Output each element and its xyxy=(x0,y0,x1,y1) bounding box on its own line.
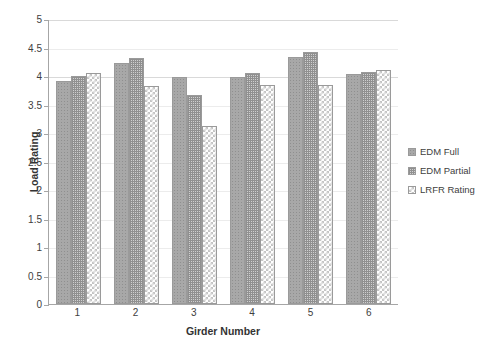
bar-group xyxy=(224,20,282,304)
bar-group xyxy=(282,20,340,304)
bar xyxy=(303,52,318,304)
x-axis-tick-label: 6 xyxy=(340,307,398,318)
bar xyxy=(129,58,144,304)
legend-label: EDM Partial xyxy=(420,165,471,176)
legend-item[interactable]: EDM Full xyxy=(408,146,475,157)
bar xyxy=(245,73,260,304)
bar xyxy=(56,81,71,304)
y-axis-tick-label: 4 xyxy=(36,72,42,82)
x-axis-tick-label: 5 xyxy=(281,307,339,318)
bar xyxy=(202,126,217,304)
bar xyxy=(230,77,245,304)
bar-group xyxy=(107,20,165,304)
bar-groups xyxy=(49,20,398,304)
y-axis-tick-label: 1.5 xyxy=(28,215,42,225)
bar xyxy=(144,86,159,304)
bar-group xyxy=(340,20,398,304)
bar-group xyxy=(49,20,107,304)
x-axis-tick-labels: 123456 xyxy=(48,307,398,318)
bar xyxy=(346,74,361,304)
legend-swatch-icon xyxy=(408,148,416,156)
x-axis-tick-label: 3 xyxy=(165,307,223,318)
y-axis-tick-label: 2 xyxy=(36,186,42,196)
y-axis-tick-label: 3.5 xyxy=(28,101,42,111)
bar xyxy=(376,70,391,304)
bar xyxy=(260,85,275,304)
bar xyxy=(172,77,187,304)
y-axis-tick-label: 0.5 xyxy=(28,272,42,282)
y-axis-tick-label: 4.5 xyxy=(28,44,42,54)
bar xyxy=(86,73,101,304)
bar xyxy=(288,57,303,304)
x-axis-title: Girder Number xyxy=(48,325,398,337)
bar xyxy=(114,63,129,304)
y-axis-tick-label: 2.5 xyxy=(28,158,42,168)
x-axis-tick-label: 1 xyxy=(48,307,106,318)
bar xyxy=(71,76,86,304)
x-axis-tick-label: 2 xyxy=(106,307,164,318)
legend-swatch-icon xyxy=(408,167,416,175)
bar-chart-figure: Load Rating 00.511.522.533.544.55 123456… xyxy=(0,0,488,351)
plot-area: 00.511.522.533.544.55 xyxy=(48,20,398,305)
y-axis-tick xyxy=(44,305,49,306)
y-axis-tick-label: 5 xyxy=(36,15,42,25)
legend-swatch-icon xyxy=(408,186,416,194)
bar xyxy=(318,85,333,304)
y-axis-tick-label: 3 xyxy=(36,129,42,139)
legend-label: EDM Full xyxy=(420,146,459,157)
legend-label: LRFR Rating xyxy=(420,184,475,195)
legend: EDM FullEDM PartialLRFR Rating xyxy=(408,146,475,195)
legend-item[interactable]: EDM Partial xyxy=(408,165,475,176)
bar xyxy=(361,72,376,304)
bar xyxy=(187,95,202,304)
y-axis-tick-label: 1 xyxy=(36,243,42,253)
legend-item[interactable]: LRFR Rating xyxy=(408,184,475,195)
bar-group xyxy=(165,20,223,304)
y-axis-tick-label: 0 xyxy=(36,300,42,310)
x-axis-tick-label: 4 xyxy=(223,307,281,318)
